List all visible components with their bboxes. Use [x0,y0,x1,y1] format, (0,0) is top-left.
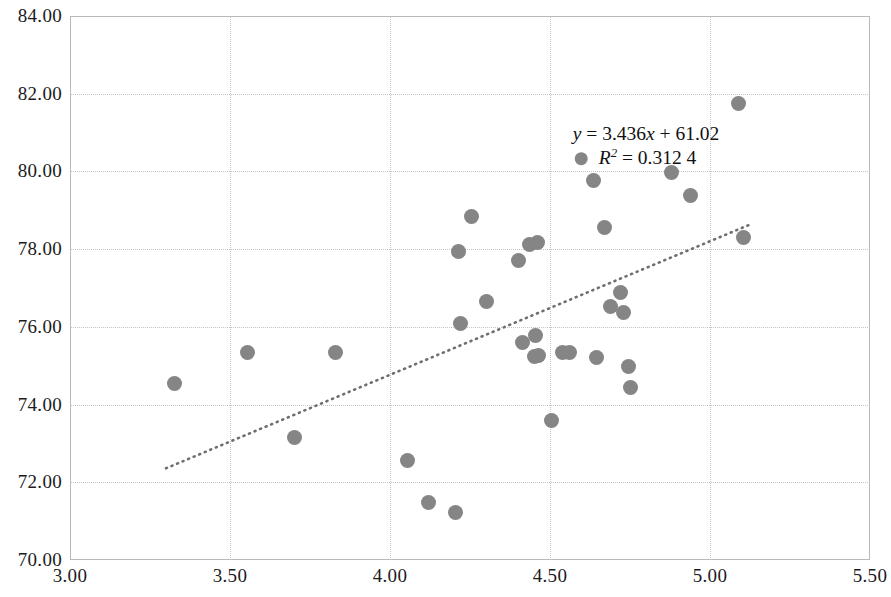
x-axis-tick-labels: 3.003.504.004.505.005.50 [70,563,870,597]
data-point [736,230,751,245]
x-axis-tick-label: 4.50 [533,565,567,587]
data-point [613,285,628,300]
x-axis-tick-label: 5.50 [853,565,887,587]
data-point [464,209,479,224]
legend-series-marker-icon [575,152,588,165]
x-axis-tick-label: 3.00 [53,565,87,587]
data-point [479,294,494,309]
y-axis-tick-label: 76.00 [18,316,62,338]
data-point [287,430,302,445]
data-point [562,345,577,360]
x-axis-tick-label: 3.50 [213,565,247,587]
data-point [621,359,636,374]
data-point [586,173,601,188]
data-point [623,380,638,395]
y-axis-tick-labels: 70.0072.0074.0076.0078.0080.0082.0084.00 [0,16,62,560]
y-axis-tick-label: 84.00 [18,5,62,27]
y-axis-tick-label: 72.00 [18,471,62,493]
plot-area: y = 3.436x + 61.02 R2 = 0.312 4 [70,16,870,560]
scatter-chart: 70.0072.0074.0076.0078.0080.0082.0084.00… [0,0,891,597]
x-axis-tick-label: 4.00 [373,565,407,587]
y-axis-tick-label: 80.00 [18,160,62,182]
y-axis-tick-label: 74.00 [18,394,62,416]
data-point [453,316,468,331]
y-axis-tick-label: 78.00 [18,238,62,260]
r-squared-text: R2 = 0.312 4 [573,146,720,170]
data-point [530,235,545,250]
y-axis-tick-label: 82.00 [18,83,62,105]
data-point [528,328,543,343]
data-point [531,348,546,363]
trendline-equation-text: y = 3.436x + 61.02 [573,122,720,146]
x-axis-tick-label: 5.00 [693,565,727,587]
data-point [616,305,631,320]
trendline [70,16,870,560]
trendline-equation-annotation: y = 3.436x + 61.02 R2 = 0.312 4 [573,122,720,170]
data-point [167,376,182,391]
data-point [589,350,604,365]
data-point [511,253,526,268]
